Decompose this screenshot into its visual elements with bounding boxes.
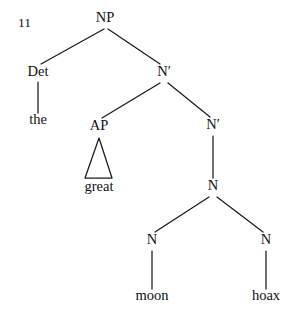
node-nbar-2: N′ (206, 116, 220, 132)
edge-nbar1-to-ap (102, 83, 160, 118)
leaf-moon: moon (135, 287, 169, 303)
ap-triangle-icon (85, 138, 112, 178)
syntax-tree-figure: 11 NP Det N′ AP N′ N N N the great moon … (0, 0, 299, 322)
node-n-right: N (261, 231, 272, 247)
edge-np-to-nbar1 (108, 29, 160, 64)
node-np: NP (96, 9, 115, 25)
edge-nbar1-to-nbar2 (168, 83, 210, 117)
leaf-great: great (85, 178, 114, 194)
node-det: Det (28, 63, 49, 79)
edge-np-to-det (41, 29, 104, 64)
node-nbar-1: N′ (157, 63, 171, 79)
node-ap: AP (90, 117, 109, 133)
edge-n-to-n-right (217, 197, 263, 232)
node-n-left: N (147, 231, 158, 247)
example-number: 11 (18, 15, 31, 30)
leaf-the: the (29, 111, 47, 127)
leaf-hoax: hoax (252, 287, 281, 303)
edge-n-to-n-left (155, 197, 209, 232)
syntax-tree-canvas: 11 NP Det N′ AP N′ N N N the great moon … (0, 0, 299, 322)
node-n-compound: N (208, 177, 219, 193)
